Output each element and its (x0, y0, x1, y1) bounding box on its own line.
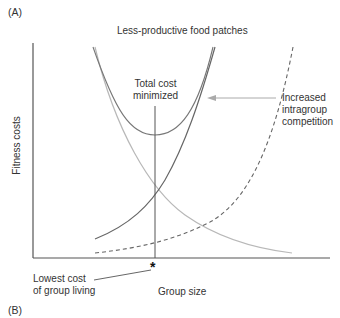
competition-annotation: Increased intragroup competition (282, 92, 333, 128)
star-marker: * (150, 261, 155, 273)
x-axis-label: Group size (158, 286, 206, 298)
lowest-cost-pointer (94, 270, 151, 280)
competition-line-2: intragroup (282, 104, 333, 116)
lowest-cost-line-2: of group living (33, 285, 95, 297)
lowest-cost-annotation: Lowest cost of group living (33, 273, 95, 297)
total-cost-line-1: Total cost (133, 78, 178, 90)
chart-canvas (0, 0, 340, 318)
decreasing-cost-curve (95, 47, 292, 253)
lowest-cost-line-1: Lowest cost (33, 273, 95, 285)
total-cost-annotation: Total cost minimized (133, 78, 178, 102)
competition-line-1: Increased (282, 92, 333, 104)
panel-b-label: (B) (8, 304, 22, 316)
total-cost-line-2: minimized (133, 90, 178, 102)
competition-cost-curve-dashed (95, 47, 293, 253)
shift-arrow-head (207, 95, 216, 101)
competition-line-3: competition (282, 116, 333, 128)
